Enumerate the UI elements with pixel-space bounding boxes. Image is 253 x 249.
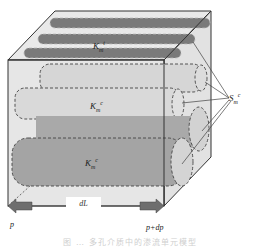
- figure-caption: 图 … 多孔介质中的渗流单元模型: [30, 236, 230, 247]
- s-label: Smc: [229, 92, 241, 105]
- pressure-in-label: p: [10, 221, 14, 229]
- k-middle-label: Kmc: [90, 100, 103, 113]
- pressure-out-label: p+dp: [146, 224, 163, 232]
- k-top-label: Kmt: [93, 40, 105, 53]
- bottom-tube: [12, 138, 193, 186]
- k-bottom-label: Kmc: [85, 157, 98, 170]
- middle-tubes: [15, 64, 207, 119]
- dl-label: dL: [66, 197, 101, 211]
